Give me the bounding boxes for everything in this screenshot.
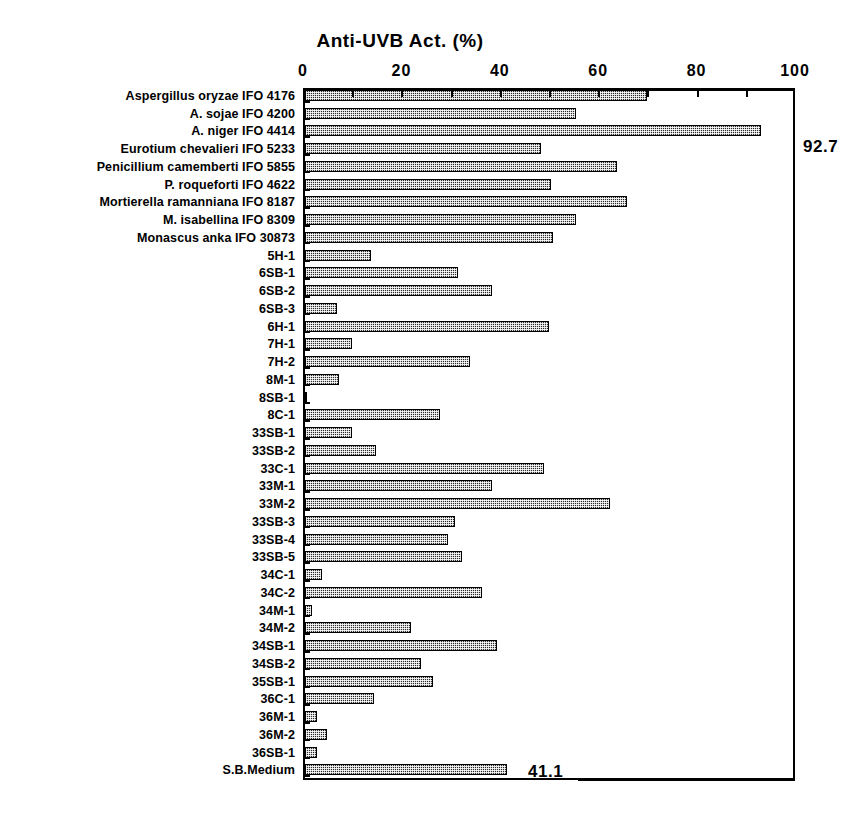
bar-row [303, 603, 795, 621]
y-axis-label: 33M-2 [259, 496, 295, 514]
bar-row [303, 425, 795, 443]
y-axis-label: 6SB-2 [259, 283, 295, 301]
x-minor-tick [647, 91, 649, 97]
bar [305, 676, 433, 687]
bar [305, 445, 376, 456]
bar-row [303, 727, 795, 745]
value-annotation-92-7: 92.7 [803, 137, 838, 157]
bar [305, 463, 544, 474]
bar [305, 338, 352, 349]
y-axis-label: Aspergillus oryzae IFO 4176 [126, 88, 295, 106]
y-axis-label: 33SB-3 [252, 514, 295, 532]
bar-row [303, 141, 795, 159]
bar-row [303, 283, 795, 301]
bar [305, 409, 440, 420]
x-minor-tick [352, 91, 354, 97]
bar [305, 108, 576, 119]
bar-row [303, 354, 795, 372]
bar-row [303, 177, 795, 195]
y-axis-label: 33SB-2 [252, 443, 295, 461]
bar [305, 729, 327, 740]
bar-row [303, 461, 795, 479]
bar-row [303, 301, 795, 319]
x-tick-label-80: 80 [687, 62, 707, 80]
y-axis-label: Eurotium chevalieri IFO 5233 [121, 141, 295, 159]
y-axis-label: 33M-1 [259, 478, 295, 496]
y-axis-label: 6H-1 [268, 319, 296, 337]
bar-row [303, 230, 795, 248]
plot-area [303, 88, 795, 780]
bar-row [303, 123, 795, 141]
x-tick-label-0: 0 [298, 62, 308, 80]
y-axis-label: 36M-2 [259, 727, 295, 745]
bar [305, 658, 421, 669]
bar [305, 587, 482, 598]
y-axis-label: M. isabellina IFO 8309 [163, 212, 295, 230]
y-axis-label: Penicillium camemberti IFO 5855 [97, 159, 295, 177]
x-minor-tick [500, 91, 502, 97]
y-axis-label: 33SB-1 [252, 425, 295, 443]
bar [305, 551, 462, 562]
bar-row [303, 514, 795, 532]
x-minor-tick [697, 91, 699, 97]
bar-row [303, 532, 795, 550]
x-minor-tick [451, 91, 453, 97]
y-axis-category-labels: Aspergillus oryzae IFO 4176A. sojae IFO … [0, 88, 299, 780]
y-axis-label: Mortierella ramanniana IFO 8187 [99, 194, 295, 212]
y-axis-label: 34C-1 [260, 567, 295, 585]
y-axis-label: 35SB-1 [252, 674, 295, 692]
bar [305, 392, 307, 403]
y-axis-label: 8C-1 [268, 407, 296, 425]
bar-row [303, 709, 795, 727]
y-axis-label: 36C-1 [260, 691, 295, 709]
bar [305, 179, 551, 190]
x-axis-tick-labels: 020406080100 [0, 62, 859, 84]
bar [305, 622, 411, 633]
y-axis-label: 34SB-2 [252, 656, 295, 674]
bar-row [303, 248, 795, 266]
bar [305, 161, 617, 172]
y-axis-label: 7H-2 [268, 354, 296, 372]
bar [305, 427, 352, 438]
bar [305, 711, 317, 722]
bar-row [303, 638, 795, 656]
bar [305, 214, 576, 225]
chart-title: Anti-UVB Act. (%) [0, 30, 800, 52]
bar-row [303, 159, 795, 177]
y-axis-label: Monascus anka IFO 30873 [137, 230, 295, 248]
bar-row [303, 372, 795, 390]
bar [305, 693, 374, 704]
bar [305, 285, 492, 296]
bar-row [303, 620, 795, 638]
bar [305, 232, 553, 243]
y-axis-label: 36SB-1 [252, 745, 295, 763]
bar [305, 764, 507, 775]
y-axis-label: 5H-1 [268, 248, 296, 266]
y-axis-label: P. roqueforti IFO 4622 [165, 177, 295, 195]
y-axis-label: S.B.Medium [222, 762, 295, 780]
x-tick-label-100: 100 [780, 62, 810, 80]
bar-row [303, 585, 795, 603]
bar [305, 90, 647, 101]
bar-row [303, 319, 795, 337]
bar-row [303, 691, 795, 709]
y-axis-label: 34SB-1 [252, 638, 295, 656]
bar-row [303, 390, 795, 408]
y-axis-label: 34M-2 [259, 620, 295, 638]
bar [305, 516, 455, 527]
bar-row [303, 745, 795, 763]
bar [305, 303, 337, 314]
bar [305, 480, 492, 491]
x-minor-tick [746, 91, 748, 97]
bar-row [303, 656, 795, 674]
bar [305, 267, 458, 278]
y-axis-label: 8M-1 [266, 372, 295, 390]
x-minor-tick [549, 91, 551, 97]
bar-row [303, 478, 795, 496]
y-axis-label: 33SB-5 [252, 549, 295, 567]
bar [305, 534, 448, 545]
y-axis-label: A. sojae IFO 4200 [190, 106, 295, 124]
bar-row [303, 106, 795, 124]
x-tick-label-20: 20 [391, 62, 411, 80]
bar-row [303, 336, 795, 354]
